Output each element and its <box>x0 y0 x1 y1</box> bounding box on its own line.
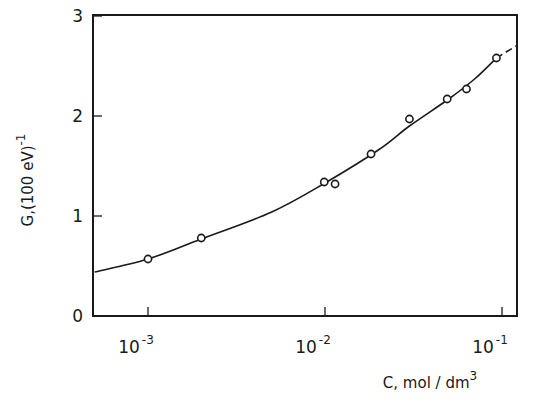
axis-ticks: 012310-310-210-1 <box>72 6 508 357</box>
axis-labels: C, mol / dm3G,(100 eV)-1 <box>14 134 477 392</box>
data-point <box>144 255 151 262</box>
fit-line <box>95 58 497 272</box>
data-point <box>444 95 451 102</box>
data-point <box>331 180 338 187</box>
x-tick-label: 10-2 <box>295 333 331 357</box>
y-axis-label: G,(100 eV)-1 <box>14 134 37 227</box>
y-tick-label: 2 <box>72 106 83 126</box>
data-point <box>463 85 470 92</box>
plot-frame <box>93 15 517 316</box>
y-tick-label: 1 <box>72 206 83 226</box>
plot-border <box>93 15 517 316</box>
chart: 012310-310-210-1 C, mol / dm3G,(100 eV)-… <box>0 0 542 403</box>
x-tick-label: 10-3 <box>118 333 154 357</box>
data-point <box>406 115 413 122</box>
data-point <box>198 234 205 241</box>
data-point <box>321 178 328 185</box>
data-point <box>493 54 500 61</box>
y-tick-label: 0 <box>72 306 83 326</box>
x-axis-label: C, mol / dm3 <box>383 369 477 392</box>
data-point <box>367 150 374 157</box>
y-tick-label: 3 <box>72 6 83 26</box>
data-points <box>144 54 500 262</box>
x-tick-label: 10-1 <box>472 333 508 357</box>
fitted-curve <box>95 46 516 272</box>
